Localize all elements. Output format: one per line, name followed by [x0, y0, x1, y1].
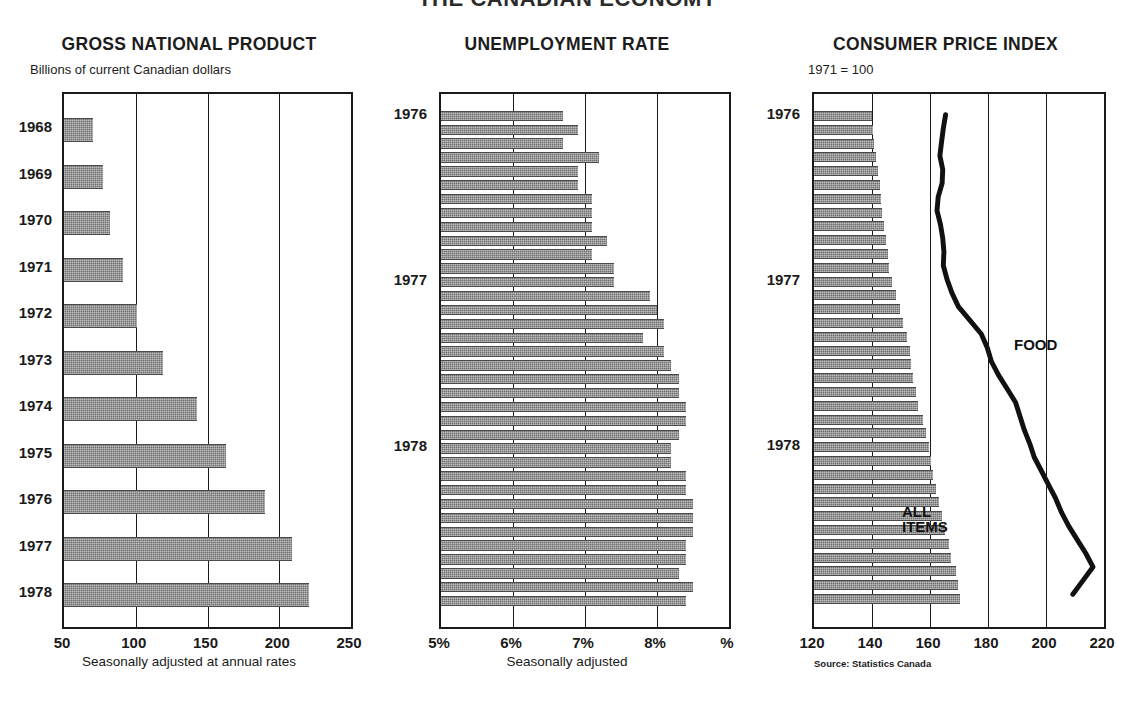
chart-page: THE CANADIAN ECONOMY GROSS NATIONAL PROD…	[0, 0, 1135, 724]
unemployment-year-label-1978: 1978	[371, 437, 427, 454]
gnp-year-label-1970: 1970	[0, 211, 52, 228]
cpi-bar-1977-06	[814, 346, 910, 356]
cpi-bar-1977-02	[814, 290, 896, 300]
cpi-bar-1976-11	[814, 249, 888, 259]
cpi-bar-1977-05	[814, 332, 907, 342]
unemployment-bar-1976-08	[441, 208, 592, 218]
cpi-title: CONSUMER PRICE INDEX	[756, 34, 1135, 55]
unemployment-bar-1977-01	[441, 277, 614, 287]
unemployment-bar-1977-11	[441, 416, 686, 426]
unemployment-bar-1978-04	[441, 485, 686, 495]
gnp-xtick-100: 100	[121, 634, 146, 651]
gnp-year-label-1977: 1977	[0, 537, 52, 554]
gnp-xtick-200: 200	[265, 634, 290, 651]
cpi-subtitle: 1971 = 100	[808, 62, 873, 77]
cpi-bar-1977-09	[814, 387, 916, 397]
cpi-xtick-120: 120	[799, 634, 824, 651]
gnp-year-label-1973: 1973	[0, 351, 52, 368]
gnp-xtick-250: 250	[336, 634, 361, 651]
unemployment-bar-1976-09	[441, 222, 592, 232]
unemployment-plot-area	[439, 92, 731, 629]
cpi-xtick-200: 200	[1031, 634, 1056, 651]
cpi-xtick-220: 220	[1089, 634, 1114, 651]
cpi-bar-1977-07	[814, 359, 911, 369]
unemployment-bar-1976-06	[441, 180, 578, 190]
cpi-bar-1976-10	[814, 235, 886, 245]
unemployment-bar-1978-10	[441, 568, 679, 578]
cpi-year-label-1976: 1976	[744, 105, 800, 122]
gnp-year-label-1968: 1968	[0, 118, 52, 135]
cpi-bar-1976-12	[814, 263, 889, 273]
cpi-bar-1978-04	[814, 484, 936, 494]
gnp-bar-1975	[64, 444, 226, 468]
unemployment-xtick-5: 5%	[428, 634, 450, 651]
gnp-bar-1974	[64, 397, 197, 421]
cpi-bar-1977-01	[814, 277, 892, 287]
cpi-bar-1978-01	[814, 442, 929, 452]
unemployment-bar-1977-06	[441, 346, 664, 356]
gnp-bar-1972	[64, 304, 137, 328]
gnp-bar-1978	[64, 583, 309, 607]
cpi-xtick-160: 160	[915, 634, 940, 651]
unemployment-bar-1978-03	[441, 471, 686, 481]
cpi-bar-1977-03	[814, 304, 900, 314]
cpi-bar-1976-07	[814, 194, 881, 204]
gnp-year-label-1969: 1969	[0, 165, 52, 182]
unemployment-bar-1977-09	[441, 388, 679, 398]
gnp-year-label-1978: 1978	[0, 583, 52, 600]
gnp-bar-1969	[64, 165, 103, 189]
unemployment-xtick-8: 8%	[644, 634, 666, 651]
cpi-year-label-1978: 1978	[744, 436, 800, 453]
gnp-bar-1977	[64, 537, 292, 561]
unemployment-bar-1977-10	[441, 402, 686, 412]
gnp-xtick-50: 50	[54, 634, 71, 651]
cpi-bar-1978-08	[814, 539, 949, 549]
unemployment-bar-1978-11	[441, 582, 693, 592]
cpi-xtick-180: 180	[973, 634, 998, 651]
cpi-bar-1976-01	[814, 111, 872, 121]
gnp-bar-1971	[64, 258, 123, 282]
cpi-bar-1977-10	[814, 401, 918, 411]
panel-consumer-price-index: CONSUMER PRICE INDEX 1971 = 100 FOOD ALL…	[756, 0, 1135, 724]
unemployment-bar-1976-03	[441, 138, 563, 148]
unemployment-bar-1978-12	[441, 596, 686, 606]
series-label-food: FOOD	[1014, 337, 1057, 352]
unemployment-bar-1976-05	[441, 166, 578, 176]
cpi-bar-1976-04	[814, 152, 876, 162]
cpi-bar-1978-12	[814, 594, 960, 604]
cpi-bar-1977-12	[814, 428, 926, 438]
gnp-year-label-1976: 1976	[0, 490, 52, 507]
cpi-bar-1978-09	[814, 553, 951, 563]
cpi-bar-1977-08	[814, 373, 913, 383]
cpi-bar-1978-02	[814, 456, 931, 466]
gnp-year-label-1974: 1974	[0, 397, 52, 414]
cpi-bar-1978-10	[814, 566, 956, 576]
cpi-bar-1977-04	[814, 318, 903, 328]
cpi-bar-1976-06	[814, 180, 880, 190]
gnp-bar-1968	[64, 118, 93, 142]
unemployment-bar-1976-07	[441, 194, 592, 204]
unemployment-bar-1977-12	[441, 430, 679, 440]
unemployment-bar-1978-05	[441, 499, 693, 509]
gnp-bar-1970	[64, 211, 110, 235]
gnp-title: GROSS NATIONAL PRODUCT	[0, 34, 378, 55]
unemployment-bar-1976-10	[441, 236, 607, 246]
unemployment-x-caption: Seasonally adjusted	[378, 654, 756, 669]
unemployment-xtick-9: %	[720, 634, 733, 651]
unemployment-bar-1977-05	[441, 333, 643, 343]
unemployment-bar-1977-07	[441, 360, 671, 370]
gnp-xtick-150: 150	[193, 634, 218, 651]
gnp-bar-1976	[64, 490, 265, 514]
gnp-plot-area	[62, 92, 353, 629]
unemployment-bar-1978-07	[441, 527, 693, 537]
gnp-year-label-1975: 1975	[0, 444, 52, 461]
unemployment-bar-1978-08	[441, 540, 686, 550]
unemployment-title: UNEMPLOYMENT RATE	[378, 34, 756, 55]
cpi-bar-1978-11	[814, 580, 958, 590]
cpi-plot-area	[812, 92, 1106, 629]
series-label-all-items: ALL ITEMS	[902, 504, 948, 535]
cpi-bar-1976-05	[814, 166, 878, 176]
unemployment-bar-1978-06	[441, 513, 693, 523]
unemployment-bar-1976-02	[441, 125, 578, 135]
unemployment-year-label-1977: 1977	[371, 271, 427, 288]
